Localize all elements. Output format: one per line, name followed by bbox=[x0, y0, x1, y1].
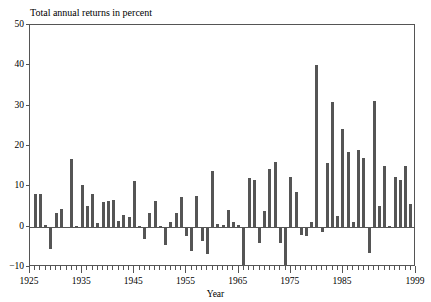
x-axis-minor-tick bbox=[102, 266, 103, 270]
bar bbox=[55, 213, 58, 227]
bar bbox=[352, 222, 355, 227]
chart-figure: Total annual returns in percent −1001020… bbox=[0, 0, 431, 302]
plot-area bbox=[29, 24, 415, 266]
x-axis-minor-tick bbox=[332, 266, 333, 270]
bar bbox=[289, 177, 292, 227]
bar bbox=[248, 178, 251, 226]
x-axis-minor-tick bbox=[305, 266, 306, 270]
bar bbox=[394, 177, 397, 227]
x-axis-major-tick bbox=[290, 266, 291, 273]
zero-baseline bbox=[30, 227, 414, 228]
x-axis-minor-tick bbox=[337, 266, 338, 270]
bar bbox=[347, 152, 350, 226]
x-axis-minor-tick bbox=[107, 266, 108, 270]
bar bbox=[102, 202, 105, 227]
bar bbox=[388, 226, 391, 227]
bar bbox=[122, 215, 125, 227]
bar bbox=[336, 216, 339, 226]
x-axis-minor-tick bbox=[222, 266, 223, 270]
y-axis-tick-label: 50 bbox=[0, 19, 24, 29]
bar bbox=[404, 166, 407, 227]
bar bbox=[133, 181, 136, 226]
bar bbox=[373, 101, 376, 226]
bar bbox=[268, 169, 271, 227]
y-axis-tick-mark bbox=[26, 185, 30, 186]
bar bbox=[211, 171, 214, 226]
x-axis-minor-tick bbox=[206, 266, 207, 270]
x-axis-minor-tick bbox=[352, 266, 353, 270]
bar bbox=[279, 227, 282, 243]
x-axis-minor-tick bbox=[170, 266, 171, 270]
x-axis-minor-tick bbox=[243, 266, 244, 270]
bar bbox=[117, 221, 120, 227]
x-axis-major-tick bbox=[415, 266, 416, 273]
x-axis-minor-tick bbox=[279, 266, 280, 270]
x-axis-minor-tick bbox=[399, 266, 400, 270]
bar bbox=[96, 223, 99, 226]
x-axis-tick-label: 1965 bbox=[218, 276, 258, 287]
x-axis-minor-tick bbox=[45, 266, 46, 270]
x-axis-minor-tick bbox=[410, 266, 411, 270]
x-axis-major-tick bbox=[238, 266, 239, 273]
bar bbox=[169, 222, 172, 227]
bar bbox=[138, 226, 141, 227]
x-axis-minor-tick bbox=[55, 266, 56, 270]
x-axis-minor-tick bbox=[248, 266, 249, 270]
bar bbox=[305, 227, 308, 236]
bar bbox=[295, 192, 298, 227]
x-axis-minor-tick bbox=[201, 266, 202, 270]
x-axis-minor-tick bbox=[326, 266, 327, 270]
x-axis-tick-label: 1975 bbox=[270, 276, 310, 287]
bar bbox=[331, 102, 334, 227]
bar bbox=[65, 227, 68, 228]
bar bbox=[341, 129, 344, 227]
x-axis-minor-tick bbox=[180, 266, 181, 270]
bar bbox=[362, 158, 365, 227]
bars-layer bbox=[30, 25, 414, 265]
x-axis-major-tick bbox=[81, 266, 82, 273]
bar bbox=[190, 227, 193, 251]
x-axis-minor-tick bbox=[347, 266, 348, 270]
x-axis-minor-tick bbox=[154, 266, 155, 270]
x-axis-minor-tick bbox=[60, 266, 61, 270]
bar bbox=[258, 227, 261, 244]
bar bbox=[175, 213, 178, 227]
bar bbox=[195, 196, 198, 226]
x-axis-minor-tick bbox=[232, 266, 233, 270]
y-axis-tick-label: −10 bbox=[0, 261, 24, 271]
bar bbox=[91, 194, 94, 226]
x-axis-minor-tick bbox=[97, 266, 98, 270]
y-axis-tick-mark bbox=[26, 145, 30, 146]
x-axis-tick-label: 1955 bbox=[165, 276, 205, 287]
x-axis-minor-tick bbox=[71, 266, 72, 270]
x-axis-minor-tick bbox=[76, 266, 77, 270]
x-axis-minor-tick bbox=[368, 266, 369, 270]
x-axis-minor-tick bbox=[159, 266, 160, 270]
x-axis-title: Year bbox=[0, 289, 431, 300]
x-axis-minor-tick bbox=[389, 266, 390, 270]
x-axis-minor-tick bbox=[405, 266, 406, 270]
x-axis-minor-tick bbox=[128, 266, 129, 270]
bar bbox=[237, 225, 240, 226]
x-axis-minor-tick bbox=[259, 266, 260, 270]
x-axis-minor-tick bbox=[149, 266, 150, 270]
y-axis-tick-mark bbox=[26, 64, 30, 65]
x-axis-minor-tick bbox=[378, 266, 379, 270]
bar bbox=[409, 204, 412, 226]
bar bbox=[81, 185, 84, 227]
bar bbox=[300, 227, 303, 235]
y-axis-tick-label: 30 bbox=[0, 100, 24, 110]
x-axis-major-tick bbox=[342, 266, 343, 273]
bar bbox=[107, 201, 110, 226]
bar bbox=[399, 180, 402, 226]
x-axis-minor-tick bbox=[50, 266, 51, 270]
x-axis-minor-tick bbox=[274, 266, 275, 270]
y-axis-tick-label: 40 bbox=[0, 59, 24, 69]
x-axis-minor-tick bbox=[227, 266, 228, 270]
bar bbox=[368, 227, 371, 254]
x-axis-minor-tick bbox=[118, 266, 119, 270]
x-axis-tick-label: 1925 bbox=[9, 276, 49, 287]
x-axis-minor-tick bbox=[300, 266, 301, 270]
bar bbox=[148, 213, 151, 227]
bar bbox=[232, 222, 235, 226]
